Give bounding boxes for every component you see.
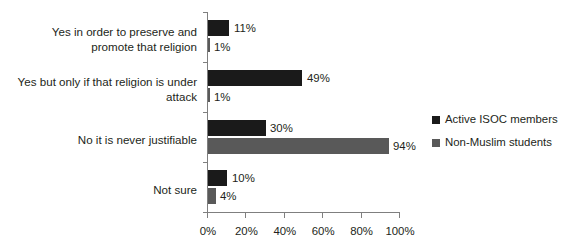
x-axis-tick-label: 20% [235,225,258,238]
bar-active-isoc-0 [208,20,229,36]
bar-value-label: 1% [214,41,230,53]
category-label: Yes but only if that religion is under a… [0,75,203,104]
x-axis-tick [322,213,323,218]
legend-label: Non-Muslim students [445,136,552,149]
x-axis-tick [361,213,362,218]
bar-active-isoc-3 [208,170,227,186]
category-label: Not sure [0,183,203,198]
x-axis-line [207,212,400,213]
bar-non-muslim-3 [208,188,216,204]
x-axis-tick [284,213,285,218]
y-axis-tick [203,12,208,13]
x-axis-tick-label: 80% [350,225,373,238]
category-label: Yes in order to preserve and promote tha… [0,25,203,54]
x-axis-tick-label: 60% [312,225,335,238]
y-axis-tick [203,162,208,163]
x-axis-tick-label: 40% [273,225,296,238]
legend-swatch-icon [432,116,440,124]
bar-value-label: 10% [232,172,255,184]
bar-value-label: 4% [220,190,236,202]
bar-value-label: 49% [307,72,330,84]
x-axis-tick-label: 100% [385,225,414,238]
bar-non-muslim-2 [208,138,389,154]
y-axis-tick [203,62,208,63]
bar-active-isoc-1 [208,70,302,86]
y-axis-tick [203,112,208,113]
bar-chart: Yes in order to preserve and promote tha… [0,0,570,252]
legend-item-non-muslim-students: Non-Muslim students [432,133,570,152]
legend-item-active-isoc-members: Active ISOC members [432,110,570,129]
bar-value-label: 30% [270,122,293,134]
chart-legend: Active ISOC members Non-Muslim students [432,110,570,156]
legend-label: Active ISOC members [445,113,558,126]
legend-swatch-icon [432,139,440,147]
bar-value-label: 11% [234,22,256,34]
bar-non-muslim-0 [208,38,210,52]
x-axis-tick-label: 0% [200,225,216,238]
bar-non-muslim-1 [208,88,210,102]
x-axis-tick [245,213,246,218]
category-label: No it is never justifiable [0,133,203,148]
plot-area: 11% 1% 49% 1% 30% 94% 10% 4% 0% 20% 40% … [208,12,400,212]
bar-active-isoc-2 [208,120,266,136]
x-axis-tick [207,213,208,218]
category-axis-labels: Yes in order to preserve and promote tha… [0,12,203,212]
x-axis-tick [399,213,400,218]
bar-value-label: 1% [214,91,230,103]
bar-value-label: 94% [393,140,416,152]
